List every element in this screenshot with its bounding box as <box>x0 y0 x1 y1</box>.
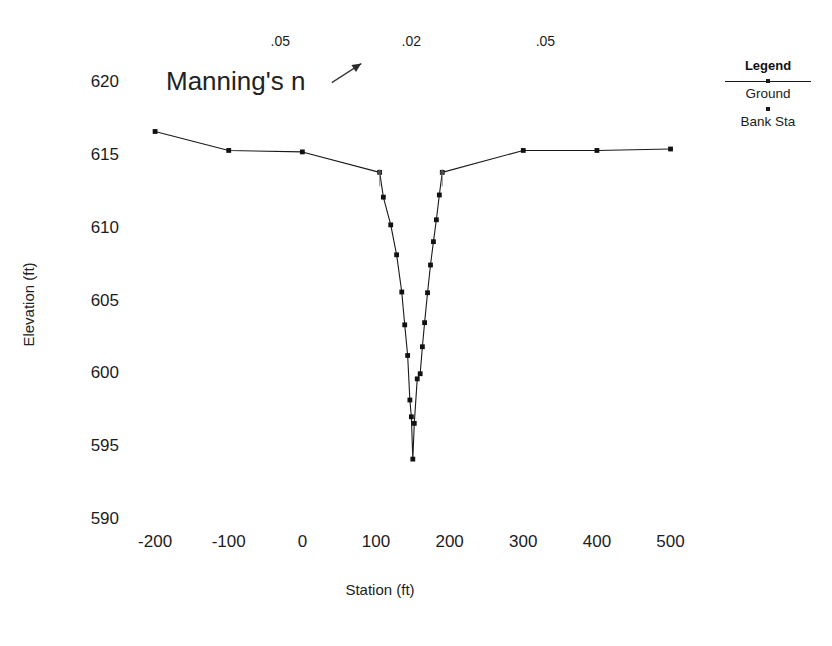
legend-title: Legend <box>716 58 820 73</box>
y-tick-label: 615 <box>63 145 119 165</box>
ground-point-marker <box>418 371 423 376</box>
legend: Legend Ground Bank Sta <box>716 58 820 130</box>
x-axis-label: Station (ft) <box>0 581 760 598</box>
series-bank-sta <box>378 169 445 186</box>
ground-point-marker <box>668 147 673 152</box>
bank-sta-marker <box>440 170 444 174</box>
ground-point-marker <box>595 148 600 153</box>
ground-point-marker <box>399 290 404 295</box>
mannings-n-arrow-head-icon <box>351 64 361 72</box>
legend-label-ground: Ground <box>716 86 820 102</box>
mannings-n-value: .02 <box>386 33 436 49</box>
y-axis-label: Elevation (ft) <box>20 225 37 385</box>
annotation-group <box>332 64 361 83</box>
ground-point-marker <box>521 148 526 153</box>
y-tick-label: 600 <box>63 363 119 383</box>
ground-point-marker <box>425 290 430 295</box>
ground-point-marker <box>437 193 442 198</box>
ground-point-marker <box>434 217 439 222</box>
cross-section-chart: Elevation (ft) Station (ft) 590595600605… <box>0 0 832 646</box>
ground-point-marker <box>428 263 433 268</box>
ground-line-swatch-icon <box>725 77 811 86</box>
y-tick-label: 620 <box>63 72 119 92</box>
bank-sta-marker <box>378 170 382 174</box>
legend-label-bank-sta: Bank Sta <box>716 114 820 130</box>
ground-point-marker <box>415 376 420 381</box>
ground-point-marker <box>388 222 393 227</box>
ground-point-marker <box>381 195 386 200</box>
x-tick-label: 0 <box>267 532 337 552</box>
x-tick-label: 100 <box>341 532 411 552</box>
ground-point-marker <box>300 150 305 155</box>
ground-point-marker <box>409 414 414 419</box>
x-tick-label: 300 <box>488 532 558 552</box>
x-tick-label: 500 <box>636 532 706 552</box>
y-tick-label: 595 <box>63 436 119 456</box>
ground-point-marker <box>407 398 412 403</box>
y-tick-label: 610 <box>63 218 119 238</box>
bank-sta-dot-swatch-icon <box>725 105 811 114</box>
mannings-n-value: .05 <box>520 33 570 49</box>
ground-point-marker <box>422 320 427 325</box>
ground-point-marker <box>420 344 425 349</box>
ground-point-marker <box>410 457 415 462</box>
series-ground <box>153 129 673 461</box>
mannings-n-value: .05 <box>255 33 305 49</box>
series-group <box>153 129 673 461</box>
ground-point-marker <box>402 322 407 327</box>
ground-point-marker <box>153 129 158 134</box>
x-tick-label: 200 <box>415 532 485 552</box>
ground-point-marker <box>394 252 399 257</box>
ground-line <box>155 131 670 459</box>
ground-point-marker <box>431 239 436 244</box>
ground-point-marker <box>226 148 231 153</box>
legend-entry-bank-sta: Bank Sta <box>716 105 820 130</box>
ground-point-marker <box>405 353 410 358</box>
x-tick-label: -200 <box>120 532 190 552</box>
x-tick-label: 400 <box>562 532 632 552</box>
mannings-n-label: Manning's n <box>166 66 305 97</box>
legend-entry-ground: Ground <box>716 77 820 102</box>
y-tick-label: 605 <box>63 291 119 311</box>
ground-point-marker <box>412 421 417 426</box>
y-tick-label: 590 <box>63 509 119 529</box>
x-tick-label: -100 <box>194 532 264 552</box>
